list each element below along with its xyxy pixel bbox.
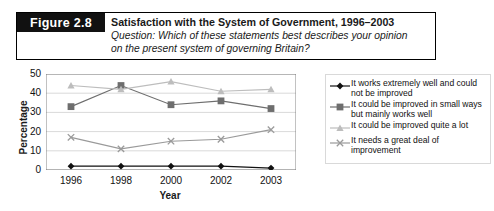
x-tick-2003: 2003 (249, 176, 293, 186)
plot-lines (46, 74, 296, 170)
legend-item-3[interactable]: It needs a great deal of improvement (329, 136, 487, 155)
legend-item-1[interactable]: It could be improved in small ways but m… (329, 100, 487, 119)
figure-title: Satisfaction with the System of Governme… (111, 15, 431, 29)
figure-subtitle: Question: Which of these statements best… (111, 30, 431, 55)
y-tick-20: 20 (15, 127, 41, 137)
triangle-marker-icon (329, 122, 351, 134)
diamond-marker-icon (329, 80, 351, 92)
data-point-0-4 (268, 165, 275, 170)
legend-label-3: It needs a great deal of improvement (351, 136, 487, 155)
legend-label-2: It could be improved quite a lot (351, 121, 468, 131)
figure-subtitle-line-2: on the present system of governing Brita… (111, 43, 431, 56)
data-point-0-1 (118, 163, 125, 170)
y-tick-50: 50 (15, 69, 41, 79)
data-point-1-4 (268, 105, 275, 112)
x-tick-2002: 2002 (199, 176, 243, 186)
x-axis-label: Year (45, 190, 295, 201)
figure-title-box: Figure 2.8 Satisfaction with the System … (16, 12, 436, 60)
x-tick-1998: 1998 (99, 176, 143, 186)
legend-item-0[interactable]: It works extremely well and could not be… (329, 79, 487, 98)
data-point-1-0 (68, 103, 75, 110)
figure-number-badge: Figure 2.8 (17, 13, 105, 32)
chart-legend: It works extremely well and could not be… (325, 74, 491, 164)
y-tick-30: 30 (15, 107, 41, 117)
y-tick-10: 10 (15, 146, 41, 156)
data-point-0-0 (68, 163, 75, 170)
legend-label-0: It works extremely well and could not be… (351, 79, 487, 98)
data-point-0-2 (168, 163, 175, 170)
x-tick-1996: 1996 (49, 176, 93, 186)
figure-panel: Figure 2.8 Satisfaction with the System … (0, 0, 494, 211)
data-point-1-3 (218, 97, 225, 104)
legend-label-1: It could be improved in small ways but m… (351, 100, 487, 119)
data-point-2-2 (167, 78, 174, 84)
figure-subtitle-line-1: Question: Which of these statements best… (111, 30, 431, 43)
square-marker-icon (329, 101, 351, 113)
x-tick-2000: 2000 (149, 176, 193, 186)
y-tick-40: 40 (15, 88, 41, 98)
series-line-3 (71, 130, 271, 149)
cross-marker-icon (329, 137, 351, 149)
data-point-1-2 (168, 101, 175, 108)
legend-item-2[interactable]: It could be improved quite a lot (329, 121, 487, 134)
data-point-0-3 (218, 163, 225, 170)
y-tick-0: 0 (15, 165, 41, 175)
